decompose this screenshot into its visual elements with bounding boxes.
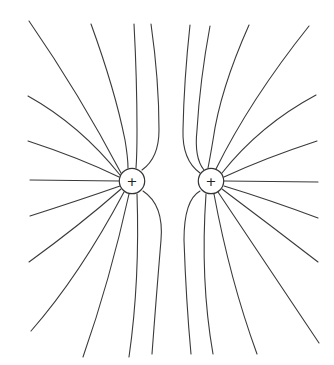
- plus-icon: +: [127, 174, 138, 189]
- right-charge: +: [198, 168, 223, 193]
- field-lines-diagram: + +: [0, 0, 334, 365]
- plus-icon: +: [206, 174, 217, 189]
- left-charge: +: [119, 168, 144, 193]
